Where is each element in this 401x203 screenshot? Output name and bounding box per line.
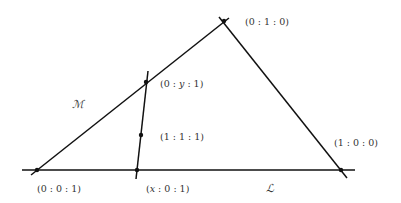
label-1-0-0: (1 : 0 : 0) — [334, 137, 378, 148]
point-0-0-1 — [35, 168, 39, 172]
label-line-l: ℒ — [266, 182, 275, 195]
label-line-m: ℳ — [72, 98, 86, 111]
label-x-0-1: (x : 0 : 1) — [146, 183, 189, 194]
projective-plane-diagram: (0 : 1 : 0) (0 : y : 1) (1 : 1 : 1) (1 :… — [0, 0, 401, 203]
label-0-1-0: (0 : 1 : 0) — [245, 16, 289, 27]
point-1-0-0 — [339, 168, 343, 172]
point-x-0-1 — [135, 168, 139, 172]
point-1-1-1 — [139, 133, 143, 137]
line-top-right — [219, 17, 347, 178]
point-0-y-1 — [144, 80, 148, 84]
label-0-0-1: (0 : 0 : 1) — [37, 183, 81, 194]
label-1-1-1: (1 : 1 : 1) — [160, 131, 204, 142]
label-0-y-1: (0 : y : 1) — [160, 78, 203, 89]
line-m — [31, 18, 229, 175]
point-0-1-0 — [222, 19, 226, 23]
